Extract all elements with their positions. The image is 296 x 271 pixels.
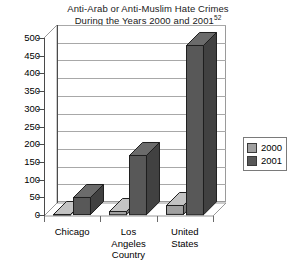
- x-tick-3: [213, 216, 214, 222]
- gridline-500: [57, 25, 226, 26]
- y-tick-label-350: 350: [6, 86, 40, 96]
- chart-legend: 2000 2001: [243, 137, 287, 171]
- y-tick-label-200: 200: [6, 139, 40, 149]
- bar-2000-los-angeles-country: [109, 198, 127, 215]
- y-axis-front-line: [44, 38, 45, 216]
- plot-left-wall: [44, 25, 57, 215]
- y-tick-label-300: 300: [6, 104, 40, 114]
- y-tick-label-0: 0: [6, 210, 40, 220]
- chart-title-line-1: Anti-Arab or Anti-Muslim Hate Crimes: [67, 3, 228, 14]
- legend-swatch-2000: [247, 143, 257, 153]
- x-tick-0: [44, 216, 45, 222]
- y-tick-mark-50: [37, 197, 44, 198]
- x-tick-2: [157, 216, 158, 222]
- y-tick-mark-500: [37, 38, 44, 39]
- y-tick-mark-350: [37, 91, 44, 92]
- y-tick-label-50: 50: [6, 192, 40, 202]
- y-tick-label-250: 250: [6, 122, 40, 132]
- legend-item-2001: 2001: [247, 154, 282, 167]
- hate-crimes-bar-chart: Anti-Arab or Anti-Muslim Hate Crimes Dur…: [0, 0, 296, 271]
- legend-label-2000: 2000: [261, 143, 282, 153]
- y-tick-label-500: 500: [6, 33, 40, 43]
- y-tick-mark-250: [37, 127, 44, 128]
- bar-2001-united-states: [186, 32, 204, 215]
- plot-area: [44, 38, 213, 215]
- x-tick-1: [100, 216, 101, 222]
- chart-title: Anti-Arab or Anti-Muslim Hate Crimes Dur…: [0, 3, 296, 27]
- y-tick-mark-0: [37, 215, 44, 216]
- y-tick-label-100: 100: [6, 175, 40, 185]
- x-axis-label-united-states: UnitedStates: [150, 226, 220, 249]
- y-tick-mark-200: [37, 144, 44, 145]
- legend-label-2001: 2001: [261, 156, 282, 166]
- y-tick-mark-400: [37, 73, 44, 74]
- x-axis-labels: ChicagoLosAngelesCountryUnitedStates: [44, 226, 234, 271]
- y-axis-labels: 500450400350300250200150100500: [2, 38, 40, 216]
- bar-2001-chicago: [73, 184, 91, 215]
- bar-2001-los-angeles-country: [129, 142, 147, 215]
- chart-title-footnote: 52: [214, 14, 221, 21]
- y-tick-mark-300: [37, 109, 44, 110]
- y-axis-back-line: [57, 25, 58, 203]
- y-tick-label-150: 150: [6, 157, 40, 167]
- bar-2000-chicago: [53, 201, 71, 215]
- legend-swatch-2001: [247, 156, 257, 166]
- y-tick-mark-100: [37, 180, 44, 181]
- y-tick-mark-150: [37, 162, 44, 163]
- bar-2000-united-states: [166, 192, 184, 215]
- legend-item-2000: 2000: [247, 141, 282, 154]
- y-tick-label-450: 450: [6, 51, 40, 61]
- y-tick-label-400: 400: [6, 68, 40, 78]
- y-tick-mark-450: [37, 56, 44, 57]
